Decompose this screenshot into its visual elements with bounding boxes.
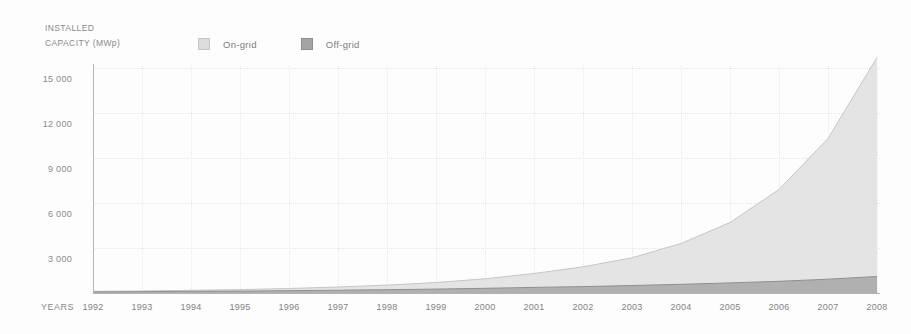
y-axis-tick-label: 3 000	[20, 254, 72, 264]
x-axis-tick-label: 2000	[463, 302, 507, 312]
x-axis-tick-label: 1993	[120, 302, 164, 312]
x-axis-tick-label: 2004	[659, 302, 703, 312]
x-axis-tick-label: 2001	[512, 302, 556, 312]
x-axis-tick-label: 2007	[806, 302, 850, 312]
x-axis-tick-label: 2006	[757, 302, 801, 312]
x-axis-tick-label: 2005	[708, 302, 752, 312]
y-axis-tick-label: 12 000	[20, 119, 72, 129]
y-axis-tick-label: 6 000	[20, 209, 72, 219]
x-axis-tick-label: 2008	[855, 302, 899, 312]
x-axis-tick-label: 1998	[365, 302, 409, 312]
x-axis-line	[93, 293, 880, 294]
x-axis-tick-label: 1996	[267, 302, 311, 312]
stacked-area-plot	[93, 36, 879, 294]
y-axis-line	[93, 64, 94, 294]
x-axis-tick-label: 1994	[169, 302, 213, 312]
x-axis-title: YEARS	[41, 302, 74, 312]
x-axis-tick-label: 2002	[561, 302, 605, 312]
x-axis-tick-label: 1995	[218, 302, 262, 312]
y-axis-title-line1: INSTALLED	[45, 21, 120, 36]
x-axis-tick-label: 1997	[316, 302, 360, 312]
y-axis-tick-label: 15 000	[20, 74, 72, 84]
x-axis-tick-label: 1992	[71, 302, 115, 312]
on-grid-area	[93, 58, 877, 292]
installed-capacity-area-chart: INSTALLED CAPACITY (MWp) On-grid Off-gri…	[0, 0, 911, 334]
x-axis-tick-label: 1999	[414, 302, 458, 312]
y-axis-tick-label: 9 000	[20, 164, 72, 174]
x-axis-tick-label: 2003	[610, 302, 654, 312]
